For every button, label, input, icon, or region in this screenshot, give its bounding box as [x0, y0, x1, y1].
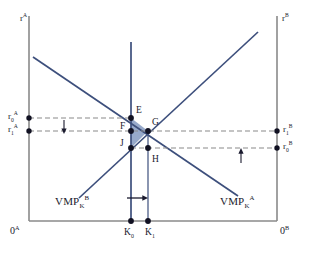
origin-right-label: 0B — [280, 226, 289, 236]
right-axis-label: rB — [282, 14, 289, 23]
arrow-left-down — [61, 120, 66, 134]
arrow-right-up — [238, 148, 243, 163]
point-dot-r0B-axis — [274, 145, 279, 150]
quantity-label-K0: K0 — [124, 228, 134, 238]
point-dot-F — [128, 128, 134, 134]
vmp-a-label: VMPKA — [220, 196, 255, 207]
vmp-b-curve — [79, 32, 258, 198]
point-label-F: F — [120, 122, 125, 132]
point-dot-r1A-axis — [26, 128, 31, 133]
quantity-label-K1: K1 — [145, 228, 155, 238]
point-dot-G — [145, 128, 151, 134]
point-label-H: H — [152, 155, 159, 165]
left-axis-label: rA — [20, 14, 27, 23]
price-label-r0A: r0A — [8, 112, 18, 121]
point-label-G: G — [152, 118, 159, 128]
point-label-E: E — [136, 106, 142, 116]
point-dot-J — [128, 145, 134, 151]
point-label-J: J — [120, 139, 124, 149]
vmp-b-label: VMPKB — [55, 196, 89, 207]
figure-canvas: rA rB 0A 0B r0A r1A r1B r0B E F G J H VM… — [0, 0, 309, 254]
point-dot-H — [145, 145, 151, 151]
price-label-r0B: r0B — [283, 142, 293, 151]
point-dot-r0A-axis — [26, 115, 31, 120]
price-label-r1B: r1B — [283, 125, 293, 134]
price-label-r1A: r1A — [8, 125, 18, 134]
origin-left-label: 0A — [10, 226, 19, 236]
point-dot-r1B-axis — [274, 128, 279, 133]
point-dot-E — [128, 115, 134, 121]
point-dot-K0-axis — [128, 218, 134, 224]
point-dot-K1-axis — [145, 218, 151, 224]
